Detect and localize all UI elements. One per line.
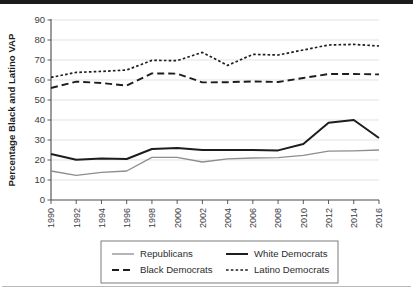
- x-axis: 1990199219941996199820002002200420062008…: [46, 200, 384, 228]
- gridlines: [51, 20, 379, 180]
- y-tick-label: 80: [34, 34, 45, 45]
- y-axis: 0102030405060708090: [34, 14, 51, 205]
- y-axis-title: Percentage Black and Latino VAP: [6, 33, 17, 186]
- y-tick-label: 50: [34, 94, 45, 105]
- x-tick-label: 1990: [46, 208, 56, 228]
- line-chart: 0102030405060708090 19901992199419961998…: [0, 0, 413, 298]
- y-axis-title-group: Percentage Black and Latino VAP: [6, 33, 17, 186]
- legend-label: White Democrats: [254, 248, 328, 259]
- legend-label: Republicans: [140, 248, 193, 259]
- x-tick-label: 2002: [198, 208, 208, 228]
- legend-label: Black Democrats: [140, 264, 213, 275]
- series-line: [51, 44, 379, 77]
- x-tick-label: 2004: [223, 208, 233, 228]
- y-tick-label: 20: [34, 154, 45, 165]
- x-tick-label: 2006: [248, 208, 258, 228]
- x-tick-label: 2010: [299, 208, 309, 228]
- x-tick-label: 2014: [349, 208, 359, 228]
- x-tick-label: 1992: [72, 208, 82, 228]
- y-tick-label: 70: [34, 54, 45, 65]
- y-tick-label: 30: [34, 134, 45, 145]
- y-tick-label: 10: [34, 174, 45, 185]
- y-tick-label: 0: [40, 194, 45, 205]
- chart-legend: RepublicansWhite DemocratsBlack Democrat…: [101, 241, 338, 283]
- x-tick-label: 1994: [97, 208, 107, 228]
- series-line: [51, 73, 379, 88]
- legend-label: Latino Democrats: [254, 264, 329, 275]
- y-tick-label: 90: [34, 14, 45, 25]
- x-tick-label: 1996: [122, 208, 132, 228]
- x-tick-label: 2000: [173, 208, 183, 228]
- series-layer: [51, 44, 379, 175]
- x-tick-label: 2012: [324, 208, 334, 228]
- x-tick-label: 2008: [273, 208, 283, 228]
- y-tick-label: 60: [34, 74, 45, 85]
- x-tick-label: 2016: [374, 208, 384, 228]
- y-tick-label: 40: [34, 114, 45, 125]
- series-line: [51, 150, 379, 175]
- x-tick-label: 1998: [147, 208, 157, 228]
- figure-root: 0102030405060708090 19901992199419961998…: [0, 0, 413, 298]
